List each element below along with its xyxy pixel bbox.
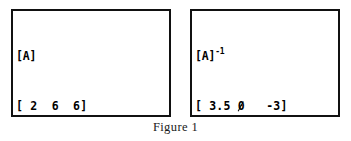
calculator-display-a-inverse: [A]-1 [ 3.5 0 -3] [ -1 1 0 ] [ 0 -1 1 ] xyxy=(195,12,336,117)
matrix-a-inverse-cell-0-1: 0 xyxy=(238,100,245,113)
matrix-a-cell-0-0: 2 xyxy=(30,99,37,113)
matrix-a-cell-0-2: 6 xyxy=(73,99,80,113)
inverse-exponent: -1 xyxy=(215,47,224,56)
matrix-a-row-1: [ 2 6 6] xyxy=(16,100,167,113)
matrix-a-inverse-cell-0-0: 3.5 xyxy=(209,99,230,113)
matrix-a-inverse-header-label: [A] xyxy=(195,49,215,63)
calculator-display-a: [A] [ 2 6 6] [ 2 7 6] [ 2 7 7] xyxy=(16,12,167,117)
matrix-a-cell-0-1: 6 xyxy=(52,99,59,113)
matrix-a-inverse-cell-0-2: -3 xyxy=(266,99,280,113)
matrix-a-inverse-row-1: [ 3.5 0 -3] xyxy=(195,100,336,113)
figure-caption: Figure 1 xyxy=(0,120,351,135)
matrix-a-inverse-header: [A]-1 xyxy=(195,50,336,63)
calculator-screen-matrix-a-inverse: [A]-1 [ 3.5 0 -3] [ -1 1 0 ] [ 0 -1 1 ] xyxy=(190,9,340,117)
figure-container: [A] [ 2 6 6] [ 2 7 6] [ 2 7 7] [A]-1 [ 3… xyxy=(0,0,351,141)
calculator-screen-matrix-a: [A] [ 2 6 6] [ 2 7 6] [ 2 7 7] xyxy=(11,9,171,117)
matrix-a-header-label: [A] xyxy=(16,49,36,63)
matrix-a-header: [A] xyxy=(16,50,167,63)
